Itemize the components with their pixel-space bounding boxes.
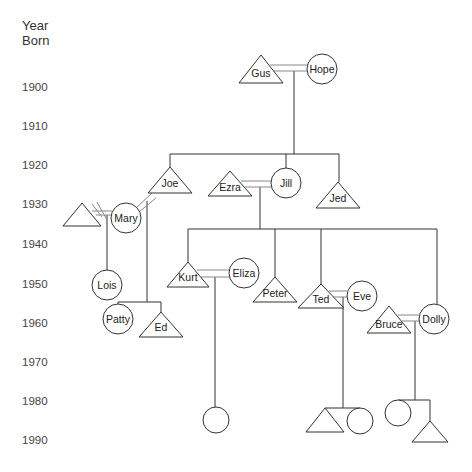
person-bruce_child_m — [412, 421, 448, 442]
person-name: Mary — [114, 212, 138, 224]
male-triangle-icon — [63, 203, 101, 226]
person-ted_child_m — [306, 408, 344, 432]
person-dolly: Dolly — [419, 304, 449, 334]
person-lois: Lois — [92, 270, 122, 300]
person-name: Jed — [330, 192, 347, 204]
person-name: Ted — [313, 293, 330, 305]
person-unnamed — [63, 203, 101, 226]
person-patty: Patty — [103, 304, 133, 334]
family-tree-diagram: GusHopeJoeEzraJillJedMaryLoisPattyEdKurt… — [0, 0, 472, 472]
person-name: Jill — [280, 177, 292, 189]
person-eve: Eve — [347, 281, 377, 311]
people-nodes: GusHopeJoeEzraJillJedMaryLoisPattyEdKurt… — [63, 54, 449, 442]
person-kurt: Kurt — [167, 262, 209, 287]
marriage-unnamed-mary — [92, 202, 112, 220]
person-name: Peter — [262, 287, 288, 299]
person-gus: Gus — [239, 55, 283, 83]
marriage-ezra-jill — [241, 181, 272, 187]
marriage-joe-mary — [136, 193, 156, 212]
person-ted: Ted — [298, 284, 344, 308]
male-triangle-icon — [306, 408, 344, 432]
descent-lines — [107, 71, 437, 421]
person-name: Eve — [353, 290, 371, 302]
person-eliza: Eliza — [229, 258, 259, 288]
person-ezra: Ezra — [208, 171, 252, 196]
male-triangle-icon — [412, 421, 448, 442]
person-jed: Jed — [316, 182, 360, 208]
female-circle-icon — [347, 408, 373, 434]
person-mary: Mary — [111, 203, 141, 233]
person-jill: Jill — [271, 168, 301, 198]
person-name: Ezra — [219, 181, 241, 193]
person-name: Bruce — [375, 318, 403, 330]
female-circle-icon — [385, 400, 411, 426]
person-name: Joe — [162, 177, 179, 189]
person-name: Eliza — [233, 267, 256, 279]
person-name: Ed — [155, 321, 168, 333]
person-hope: Hope — [307, 54, 337, 84]
person-name: Gus — [251, 67, 270, 79]
person-bruce_child_f — [385, 400, 411, 426]
person-joe: Joe — [148, 167, 192, 193]
person-name: Patty — [106, 313, 131, 325]
person-ed: Ed — [139, 312, 183, 337]
person-ted_child_f — [347, 408, 373, 434]
person-name: Kurt — [178, 271, 197, 283]
female-circle-icon — [203, 407, 229, 433]
marriage-kurt-eliza — [197, 270, 230, 277]
marriage-gus-hope — [270, 65, 308, 71]
person-name: Dolly — [422, 313, 446, 325]
person-kurt_child — [203, 407, 229, 433]
marriage-line — [136, 193, 152, 208]
person-bruce: Bruce — [367, 306, 411, 333]
person-name: Lois — [97, 279, 116, 291]
person-name: Hope — [309, 63, 334, 75]
person-peter: Peter — [253, 277, 297, 302]
